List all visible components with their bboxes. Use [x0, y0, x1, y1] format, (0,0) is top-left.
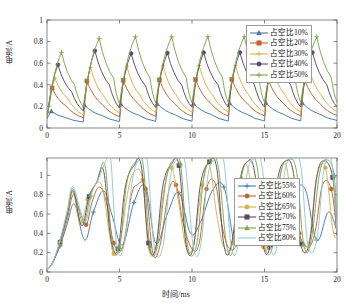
svg-text:0: 0	[39, 124, 43, 133]
bottom-chart-panel: 电流/A 0510152000.20.40.60.81 占空比55%占空比60%…	[0, 150, 352, 304]
legend-item: 占空比55%	[237, 181, 296, 192]
svg-text:20: 20	[333, 275, 341, 284]
legend-label: 占空比50%	[270, 70, 308, 80]
svg-text:10: 10	[188, 131, 196, 140]
svg-text:0: 0	[45, 131, 49, 140]
legend-item: 占空比50%	[249, 70, 308, 81]
svg-text:1: 1	[39, 16, 43, 25]
svg-text:5: 5	[118, 275, 122, 284]
svg-text:15: 15	[261, 275, 269, 284]
svg-text:1: 1	[39, 171, 43, 180]
svg-text:0.6: 0.6	[34, 210, 44, 219]
top-y-axis-label: 电流/A	[4, 40, 15, 64]
legend-label: 占空比55%	[258, 181, 296, 191]
svg-text:20: 20	[333, 131, 341, 140]
legend-swatch-3	[237, 202, 257, 212]
legend-swatch-4	[237, 212, 257, 222]
svg-text:0: 0	[39, 268, 43, 277]
top-chart-legend: 占空比10%占空比20%占空比30%占空比40%占空比50%	[246, 25, 312, 83]
legend-item: 占空比75%	[237, 223, 296, 234]
legend-swatch-3	[249, 49, 269, 59]
svg-text:0.8: 0.8	[34, 37, 44, 46]
legend-label: 占空比40%	[270, 59, 308, 69]
top-chart-panel: 电流/A 0510152000.20.40.60.81 占空比10%占空比20%…	[0, 0, 352, 146]
legend-item: 占空比40%	[249, 59, 308, 70]
legend-item: 占空比80%	[237, 233, 296, 244]
dual-panel-figure: 电流/A 0510152000.20.40.60.81 占空比10%占空比20%…	[0, 0, 352, 304]
bottom-y-axis-label: 电流/A	[4, 190, 15, 214]
legend-label: 占空比60%	[258, 191, 296, 201]
svg-text:0.2: 0.2	[34, 102, 44, 111]
svg-text:0.6: 0.6	[34, 59, 44, 68]
legend-swatch-1	[249, 28, 269, 38]
svg-text:10: 10	[188, 275, 196, 284]
legend-label: 占空比75%	[258, 223, 296, 233]
legend-label: 占空比80%	[258, 233, 296, 243]
svg-text:15: 15	[261, 131, 269, 140]
svg-text:0.8: 0.8	[34, 190, 44, 199]
legend-label: 占空比30%	[270, 49, 308, 59]
legend-swatch-2	[249, 38, 269, 48]
svg-text:0.4: 0.4	[34, 229, 44, 238]
svg-text:5: 5	[118, 131, 122, 140]
legend-item: 占空比60%	[237, 191, 296, 202]
svg-text:0: 0	[45, 275, 49, 284]
legend-swatch-5	[249, 70, 269, 80]
figure-root: 电流/A 0510152000.20.40.60.81 占空比10%占空比20%…	[0, 0, 352, 304]
svg-text:0.2: 0.2	[34, 248, 44, 257]
svg-text:0.4: 0.4	[34, 81, 44, 90]
legend-item: 占空比70%	[237, 212, 296, 223]
bottom-chart-legend: 占空比55%占空比60%占空比65%占空比70%占空比75%占空比80%	[234, 178, 300, 246]
legend-swatch-4	[249, 59, 269, 69]
legend-label: 占空比10%	[270, 28, 308, 38]
legend-swatch-2	[237, 191, 257, 201]
legend-swatch-5	[237, 223, 257, 233]
legend-item: 占空比65%	[237, 202, 296, 213]
legend-label: 占空比20%	[270, 38, 308, 48]
legend-item: 占空比20%	[249, 38, 308, 49]
legend-label: 占空比70%	[258, 212, 296, 222]
legend-item: 占空比10%	[249, 28, 308, 39]
legend-label: 占空比65%	[258, 202, 296, 212]
x-axis-label: 时间/ms	[0, 288, 352, 299]
legend-swatch-1	[237, 181, 257, 191]
legend-item: 占空比30%	[249, 49, 308, 60]
legend-swatch-6	[237, 233, 257, 243]
